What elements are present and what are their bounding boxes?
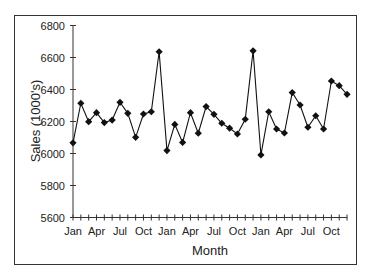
x-tick-label: Jul bbox=[207, 225, 221, 237]
x-tick-label: Jul bbox=[113, 225, 127, 237]
x-tick-label: Oct bbox=[229, 225, 246, 237]
data-point-marker bbox=[116, 99, 123, 106]
x-axis-title: Month bbox=[192, 243, 228, 258]
y-tick-label: 6800 bbox=[41, 20, 65, 32]
data-point-marker bbox=[77, 100, 84, 107]
x-tick-label: Jul bbox=[301, 225, 315, 237]
data-point-marker bbox=[265, 108, 272, 115]
x-tick-label: Oct bbox=[135, 225, 152, 237]
x-tick-label: Jan bbox=[64, 225, 82, 237]
y-tick-label: 6000 bbox=[41, 148, 65, 160]
y-axis: 5600580060006200640066006800 bbox=[41, 20, 76, 224]
line-chart: 5600580060006200640066006800 JanAprJulOc… bbox=[0, 0, 371, 277]
data-point-marker bbox=[273, 125, 280, 132]
data-point-marker bbox=[148, 108, 155, 115]
y-tick-label: 6600 bbox=[41, 52, 65, 64]
x-tick-label: Apr bbox=[276, 225, 293, 237]
data-point-marker bbox=[156, 48, 163, 55]
series-line bbox=[73, 51, 347, 155]
data-point-marker bbox=[124, 110, 131, 117]
data-point-marker bbox=[312, 112, 319, 119]
data-point-marker bbox=[179, 139, 186, 146]
x-tick-label: Jan bbox=[252, 225, 270, 237]
x-tick-label: Apr bbox=[88, 225, 105, 237]
x-tick-label: Jan bbox=[158, 225, 176, 237]
data-point-marker bbox=[281, 129, 288, 136]
x-axis: JanAprJulOctJanAprJulOctJanAprJulOct bbox=[64, 215, 347, 237]
data-point-marker bbox=[140, 110, 147, 117]
plot-area bbox=[69, 47, 350, 158]
y-tick-label: 5800 bbox=[41, 180, 65, 192]
data-point-marker bbox=[257, 151, 264, 158]
data-point-marker bbox=[187, 109, 194, 116]
data-point-marker bbox=[249, 47, 256, 54]
data-point-marker bbox=[289, 89, 296, 96]
data-point-marker bbox=[304, 124, 311, 131]
y-tick-label: 6200 bbox=[41, 116, 65, 128]
data-point-marker bbox=[109, 116, 116, 123]
x-tick-label: Oct bbox=[323, 225, 340, 237]
data-point-marker bbox=[132, 134, 139, 141]
data-point-marker bbox=[69, 139, 76, 146]
x-tick-label: Apr bbox=[182, 225, 199, 237]
data-point-marker bbox=[296, 101, 303, 108]
y-tick-label: 6400 bbox=[41, 84, 65, 96]
data-point-marker bbox=[195, 130, 202, 137]
data-point-marker bbox=[320, 125, 327, 132]
data-point-marker bbox=[328, 77, 335, 84]
data-point-marker bbox=[163, 147, 170, 154]
y-axis-title: Sales (1000's) bbox=[28, 80, 43, 163]
data-point-marker bbox=[171, 121, 178, 128]
y-tick-label: 5600 bbox=[41, 212, 65, 224]
data-point-marker bbox=[242, 116, 249, 123]
